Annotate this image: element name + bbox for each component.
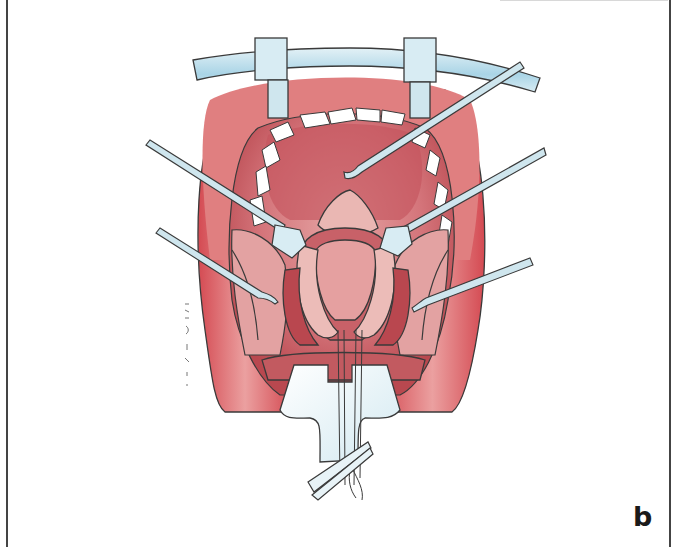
artist-signature <box>183 300 191 390</box>
figure-frame: b <box>0 0 677 547</box>
panel-label: b <box>633 503 652 530</box>
surgical-illustration <box>0 0 677 547</box>
